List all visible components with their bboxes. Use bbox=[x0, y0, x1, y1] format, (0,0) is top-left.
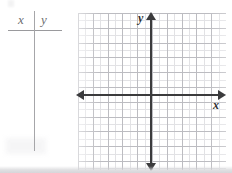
table-header-rule bbox=[8, 30, 62, 31]
grid-major-lines bbox=[78, 13, 226, 170]
y-axis-label: y bbox=[138, 12, 143, 24]
worksheet-canvas: x y y x bbox=[0, 0, 232, 173]
xy-value-table[interactable]: x y bbox=[0, 0, 76, 173]
arrow-left-icon bbox=[76, 90, 84, 100]
table-header-x: x bbox=[18, 13, 24, 26]
table-header-y: y bbox=[41, 13, 47, 26]
x-axis-label: x bbox=[213, 99, 219, 111]
scan-artifact-bottom-edge bbox=[0, 166, 232, 173]
table-column-divider bbox=[34, 11, 35, 151]
coordinate-grid[interactable] bbox=[78, 13, 226, 170]
arrow-up-icon bbox=[146, 12, 156, 20]
y-axis-line bbox=[150, 17, 152, 165]
arrow-right-icon bbox=[218, 90, 226, 100]
